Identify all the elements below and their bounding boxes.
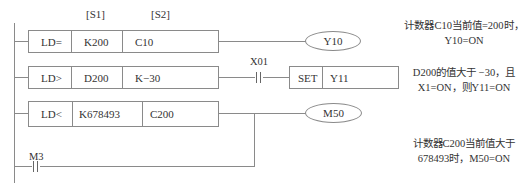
rung2-input-wire bbox=[14, 77, 28, 78]
rung2-instruction: LD> bbox=[29, 67, 71, 88]
rung3-branch-wire-left bbox=[14, 166, 32, 167]
rung1-s1: K200 bbox=[71, 31, 122, 52]
rung2-note-line2: X1=ON，则Y11=ON bbox=[402, 80, 526, 95]
rung3-input-wire bbox=[14, 113, 28, 114]
rung3-note-line2: 678493时，M50=ON bbox=[402, 151, 526, 166]
rung1-instruction: LD= bbox=[29, 31, 71, 52]
rung3-output-wire bbox=[218, 113, 306, 114]
header-s2: [S2] bbox=[151, 8, 170, 20]
rung1-input-wire bbox=[14, 41, 28, 42]
rung1-note: 计数器C10当前值=200时， Y10=ON bbox=[402, 18, 526, 48]
rung2-wire-to-set bbox=[263, 77, 289, 78]
rung1-output-coil[interactable]: Y10 bbox=[305, 31, 361, 51]
header-s1: [S1] bbox=[86, 8, 105, 20]
rung2-wire-to-contact bbox=[218, 77, 255, 78]
rung2-s2: K−30 bbox=[122, 67, 218, 88]
rung3-output-coil[interactable]: M50 bbox=[305, 103, 362, 123]
rung1-compare-block[interactable]: LD= K200 C10 bbox=[28, 30, 219, 53]
rung3-note: 计数器C200当前值大于 678493时，M50=ON bbox=[402, 136, 526, 166]
rung2-compare-block[interactable]: LD> D200 K−30 bbox=[28, 66, 219, 89]
rung3-instruction: LD< bbox=[29, 102, 72, 126]
rung2-note-line1: D200的值大于 −30，且 bbox=[402, 65, 526, 80]
rung2-no-contact-icon[interactable] bbox=[254, 72, 263, 83]
rung3-branch-wire-right bbox=[40, 166, 255, 167]
rung3-or-branch-vertical bbox=[254, 113, 255, 167]
rung2-set-block[interactable]: SET Y11 bbox=[289, 66, 399, 89]
rung2-contact-label: X01 bbox=[250, 56, 268, 67]
rung3-s2: C200 bbox=[142, 102, 218, 126]
rung1-output-label: Y10 bbox=[324, 35, 343, 47]
rung1-output-wire bbox=[218, 41, 306, 42]
rung3-s1: K678493 bbox=[72, 102, 142, 126]
rung3-note-line1: 计数器C200当前值大于 bbox=[402, 136, 526, 151]
rung2-note: D200的值大于 −30，且 X1=ON，则Y11=ON bbox=[402, 65, 526, 95]
rung3-parallel-no-contact-icon[interactable] bbox=[31, 161, 40, 172]
left-power-rail bbox=[14, 23, 15, 183]
rung1-s2: C10 bbox=[122, 31, 218, 52]
rung1-note-line1: 计数器C10当前值=200时， bbox=[402, 18, 526, 33]
rung2-set-operand: Y11 bbox=[322, 67, 398, 88]
rung2-set-instruction: SET bbox=[290, 67, 322, 88]
rung3-compare-block[interactable]: LD< K678493 C200 bbox=[28, 101, 219, 127]
rung2-s1: D200 bbox=[71, 67, 122, 88]
rung3-output-label: M50 bbox=[323, 107, 344, 119]
rung1-note-line2: Y10=ON bbox=[402, 33, 526, 48]
